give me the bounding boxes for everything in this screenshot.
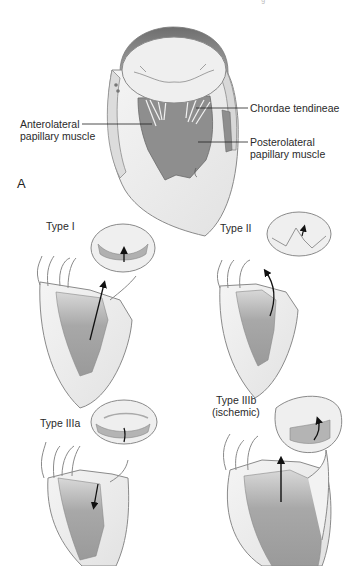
type-iiib-illustration [223,396,341,566]
chordae-tendineae-label: Chordae tendineae [250,102,339,114]
type-ii-label: Type II [220,222,252,234]
diagram-canvas [0,0,355,566]
type-iiia-label: Type IIIa [40,417,80,429]
type-iiib-label-line2: (ischemic) [212,406,260,418]
anterolateral-label-line1: Anterolateral [20,118,80,130]
type-iiib-label-line1: Type IIIb [216,394,256,406]
anterolateral-label-line2: papillary muscle [20,130,95,142]
type-i-label: Type I [46,220,75,232]
type-i-illustration [37,224,155,408]
posterolateral-label-line2: papillary muscle [250,148,325,160]
type-ii-illustration [217,212,331,398]
posterolateral-label-line1: Posterolateral [250,136,315,148]
panel-letter-a: A [17,176,26,191]
mitral-apparatus-illustration [107,27,238,236]
